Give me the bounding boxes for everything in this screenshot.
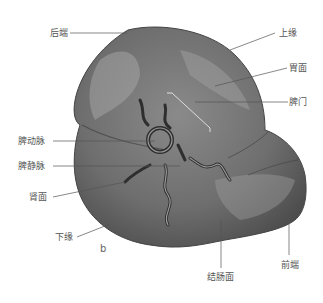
label-anterior-end: 前端 [281, 260, 299, 270]
spleen-drawing [0, 0, 323, 303]
label-posterior-end: 后端 [50, 28, 68, 38]
label-superior-border: 上缘 [279, 28, 297, 38]
label-splenic-artery: 脾动脉 [18, 136, 45, 146]
label-splenic-vein: 脾静脉 [18, 161, 45, 171]
label-gastric-surface: 胃面 [289, 63, 307, 73]
label-hilum: 脾门 [289, 97, 307, 107]
label-colic-surface: 结肠面 [207, 272, 234, 282]
label-inferior-border: 下缘 [55, 232, 73, 242]
label-renal-surface: 肾面 [29, 192, 47, 202]
panel-label: b [100, 243, 106, 254]
spleen-illustration: 后端 上缘 胃面 脾门 脾动脉 脾静脉 肾面 下缘 结肠面 前端 b [0, 0, 323, 303]
